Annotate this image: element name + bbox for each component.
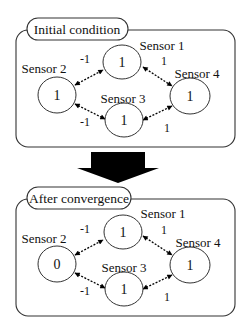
edge-weight-s3-s4: 1: [164, 290, 170, 304]
sensor-label: Sensor 4: [175, 235, 221, 250]
diagram-canvas: Initial condition -1 1 -1 1 1 Sensor 1 1…: [0, 0, 250, 323]
edge-s1-s4: [143, 67, 172, 86]
sensor-node-1: 1 Sensor 1: [104, 206, 186, 249]
panel-title-pill: After convergence: [27, 187, 131, 209]
sensor-node-3: 1 Sensor 3: [101, 260, 146, 306]
edge-weight-s1-s4: 1: [161, 54, 167, 68]
panel-initial-condition: Initial condition -1 1 -1 1 1 Sensor 1 1…: [16, 18, 235, 147]
sensor-node-2: 1 Sensor 2: [21, 61, 76, 113]
panel-after-convergence: After convergence -1 1 -1 1 1 Sensor 1 0…: [16, 187, 235, 316]
sensor-node-4: 1 Sensor 4: [170, 235, 221, 283]
edge-s2-s1: [75, 70, 103, 85]
sensor-node-2: 0 Sensor 2: [21, 231, 76, 282]
edge-weight-s3-s4: 1: [164, 121, 170, 135]
sensor-label: Sensor 4: [174, 66, 220, 81]
panel-title: Initial condition: [34, 22, 121, 37]
sensor-value: 0: [54, 257, 61, 272]
sensor-value: 1: [187, 89, 194, 104]
edge-weight-s2-s1: -1: [80, 222, 90, 236]
down-arrow-icon: [77, 152, 159, 183]
edge-s3-s4: [143, 275, 172, 289]
edge-weight-s1-s4: 1: [161, 223, 167, 237]
panel-title-pill: Initial condition: [27, 18, 128, 40]
sensor-value: 1: [121, 282, 128, 297]
sensor-value: 1: [187, 258, 194, 273]
edge-s2-s1: [75, 240, 103, 255]
sensor-value: 1: [54, 88, 61, 103]
sensor-label: Sensor 2: [21, 231, 66, 246]
edge-weight-s2-s3: -1: [80, 115, 90, 129]
sensor-node-1: 1 Sensor 1: [103, 38, 185, 79]
sensor-label: Sensor 1: [139, 38, 184, 53]
sensor-node-3: 1 Sensor 3: [100, 91, 145, 137]
panel-title: After convergence: [29, 191, 129, 206]
sensor-label: Sensor 1: [140, 206, 185, 221]
edge-weight-s2-s1: -1: [80, 52, 90, 66]
edge-weight-s2-s3: -1: [80, 284, 90, 298]
sensor-label: Sensor 3: [101, 260, 146, 275]
edge-s3-s4: [143, 106, 172, 120]
sensor-label: Sensor 2: [21, 61, 66, 76]
edge-s1-s4: [143, 236, 172, 255]
sensor-node-4: 1 Sensor 4: [170, 66, 220, 114]
sensor-value: 1: [121, 113, 128, 128]
sensor-label: Sensor 3: [100, 91, 145, 106]
sensor-value: 1: [120, 225, 127, 240]
sensor-value: 1: [119, 55, 126, 70]
